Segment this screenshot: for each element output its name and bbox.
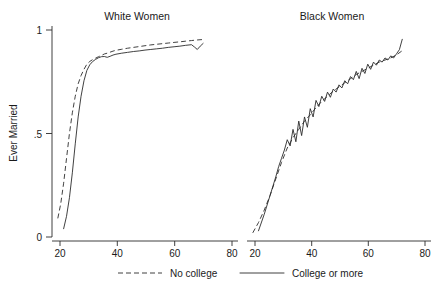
- panel-title-white-women: White Women: [104, 10, 170, 22]
- y-tick-label-1: 1: [36, 25, 42, 36]
- panel-title-black-women: Black Women: [300, 10, 365, 22]
- series-line-college-or-more-black: [259, 39, 403, 230]
- x-axis-white-women: 20 40 60 80: [52, 241, 238, 259]
- series-line-college-or-more-white: [64, 43, 204, 228]
- x-tick-label-left-20: 20: [54, 248, 66, 259]
- y-tick-label-half: .5: [34, 129, 43, 140]
- y-axis-title: Ever Married: [8, 104, 19, 161]
- chart-legend: No college College or more: [118, 268, 364, 279]
- legend-label-college-or-more: College or more: [292, 268, 364, 279]
- x-tick-label-left-60: 60: [169, 248, 181, 259]
- legend-item-no-college: No college: [118, 268, 218, 279]
- ever-married-by-age-chart: 1 .5 0 Ever Married White Women 20 40 60…: [0, 0, 435, 292]
- y-axis: 1 .5 0 Ever Married: [8, 25, 52, 243]
- x-tick-label-right-60: 60: [363, 248, 375, 259]
- x-axis-black-women: 20 40 60 80: [247, 241, 431, 259]
- y-tick-label-0: 0: [36, 232, 42, 243]
- x-tick-label-right-20: 20: [249, 248, 261, 259]
- legend-label-no-college: No college: [170, 268, 218, 279]
- panel-white-women: White Women 20 40 60 80: [52, 10, 238, 259]
- chart-figure: 1 .5 0 Ever Married White Women 20 40 60…: [0, 0, 435, 292]
- x-tick-label-right-40: 40: [306, 248, 318, 259]
- series-line-no-college-white: [58, 40, 203, 219]
- panel-black-women: Black Women 20 40 60 80: [247, 10, 431, 259]
- x-tick-label-left-40: 40: [112, 248, 124, 259]
- x-tick-label-right-80: 80: [419, 248, 431, 259]
- series-line-no-college-black: [253, 51, 403, 233]
- legend-item-college-or-more: College or more: [240, 268, 364, 279]
- x-tick-label-left-80: 80: [226, 248, 238, 259]
